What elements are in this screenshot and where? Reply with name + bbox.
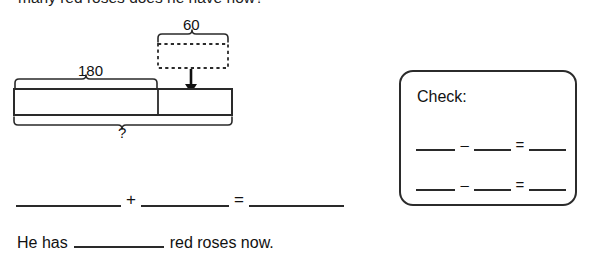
bar-model-svg xyxy=(0,0,300,145)
check-minus-sign: – xyxy=(455,179,473,191)
bar-whole xyxy=(14,89,232,115)
math-worksheet: many red roses does he have now? xyxy=(0,0,598,279)
bar-label-part-60: 60 xyxy=(183,17,200,32)
answer-sentence: He has red roses now. xyxy=(17,233,274,253)
equation-blank-2[interactable] xyxy=(141,189,229,207)
answer-equation-row: + = xyxy=(16,183,366,207)
check-blank-2[interactable] xyxy=(474,175,511,191)
check-blank-3[interactable] xyxy=(529,135,566,151)
check-blank-1[interactable] xyxy=(416,135,455,151)
bar-model-diagram: 180 60 ? xyxy=(0,0,300,145)
check-minus-sign: – xyxy=(455,139,473,151)
check-equals-sign: = xyxy=(511,179,530,191)
sentence-prefix: He has xyxy=(17,233,68,253)
sentence-answer-blank[interactable] xyxy=(74,233,164,248)
check-equation-row: – = xyxy=(416,175,566,191)
equation-blank-3[interactable] xyxy=(249,189,344,207)
bar-label-unknown: ? xyxy=(118,125,126,140)
check-blank-1[interactable] xyxy=(416,175,455,191)
equation-blank-1[interactable] xyxy=(16,189,121,207)
plus-sign: + xyxy=(121,193,141,207)
check-equals-sign: = xyxy=(511,139,530,151)
check-panel-title: Check: xyxy=(417,88,467,106)
check-blank-3[interactable] xyxy=(529,175,566,191)
sentence-suffix: red roses now. xyxy=(170,233,274,253)
check-equation-row: – = xyxy=(416,135,566,151)
dotted-part-box xyxy=(158,44,228,68)
check-panel: Check: – = – = xyxy=(399,70,577,206)
bar-label-whole-180: 180 xyxy=(78,63,103,78)
check-blank-2[interactable] xyxy=(474,135,511,151)
equals-sign: = xyxy=(229,193,249,207)
